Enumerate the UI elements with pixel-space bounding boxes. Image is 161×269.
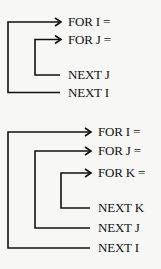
for-i-label: FOR I = xyxy=(68,15,110,28)
next-j-label-2: NEXT J xyxy=(98,221,140,234)
for-j-label-2: FOR J = xyxy=(98,144,141,157)
next-k-label-2: NEXT K xyxy=(98,201,144,214)
for-k-label-2: FOR K = xyxy=(98,166,145,179)
next-i-label: NEXT I xyxy=(68,86,109,99)
loop-j-bracket xyxy=(35,36,61,76)
next-i-label-2: NEXT I xyxy=(98,241,139,254)
for-j-label: FOR J = xyxy=(68,33,111,46)
loop-k-bracket-2 xyxy=(61,169,91,208)
next-j-label: NEXT J xyxy=(68,68,110,81)
loop-i-bracket-2 xyxy=(8,128,91,248)
for-i-label-2: FOR I = xyxy=(98,125,140,138)
loop-j-bracket-2 xyxy=(35,147,91,228)
